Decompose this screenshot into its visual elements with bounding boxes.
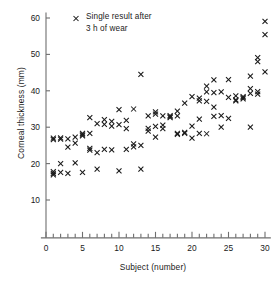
svg-text:15: 15 xyxy=(151,243,161,253)
svg-text:30: 30 xyxy=(31,122,41,132)
plot-canvas: 102030405060 051015202530 xyxy=(0,0,280,287)
x-axis-ticks: 051015202530 xyxy=(44,232,270,253)
scatter-plot-figure: 102030405060 051015202530 Corneal thickn… xyxy=(0,0,280,287)
svg-text:0: 0 xyxy=(44,243,49,253)
axes xyxy=(41,13,271,238)
data-markers xyxy=(51,19,268,178)
svg-text:25: 25 xyxy=(224,243,234,253)
svg-text:40: 40 xyxy=(31,86,41,96)
svg-text:20: 20 xyxy=(187,243,197,253)
legend-entry-line1: Single result after xyxy=(86,11,152,23)
legend-marker xyxy=(74,16,79,21)
svg-text:30: 30 xyxy=(260,243,270,253)
svg-text:60: 60 xyxy=(31,13,41,23)
legend-entry-line2: 3 h of wear xyxy=(86,23,152,35)
legend: Single result after 3 h of wear xyxy=(86,11,152,34)
x-axis-label-text: Subject (number) xyxy=(94,262,187,272)
y-axis-ticks: 102030405060 xyxy=(31,13,50,205)
y-axis-label: Corneal thickness (mm) xyxy=(16,48,26,178)
svg-text:10: 10 xyxy=(31,195,41,205)
svg-text:20: 20 xyxy=(31,159,41,169)
svg-text:10: 10 xyxy=(114,243,124,253)
x-axis-label: Subject (number) xyxy=(0,262,280,272)
svg-text:50: 50 xyxy=(31,49,41,59)
svg-text:5: 5 xyxy=(80,243,85,253)
